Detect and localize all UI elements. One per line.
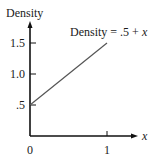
- y-axis-label: Density: [6, 6, 43, 20]
- x-axis-label: x: [141, 129, 148, 143]
- density-chart: Density Density = .5 + x .51.01.51 x 0: [0, 0, 152, 161]
- density-line: [30, 43, 107, 105]
- y-axis-arrow-icon: [28, 21, 33, 28]
- x-tick-label: 1: [104, 143, 110, 157]
- annotation-prefix: Density = .5 +: [70, 25, 142, 39]
- y-tick-label: 1.0: [10, 67, 25, 81]
- annotation-var: x: [141, 25, 148, 39]
- x-origin-label: 0: [27, 143, 33, 157]
- y-tick-label: .5: [16, 98, 25, 112]
- annotation-label: Density = .5 + x: [70, 25, 148, 39]
- x-axis-arrow-icon: [131, 134, 138, 139]
- y-tick-label: 1.5: [10, 36, 25, 50]
